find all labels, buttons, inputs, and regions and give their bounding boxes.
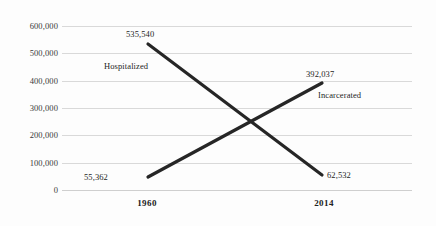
label-hospitalized-start: 535,540 (126, 29, 154, 39)
y-tick-500000: 500,000 (0, 49, 58, 58)
gridline-200000 (62, 135, 412, 136)
label-incarcerated-end: 392,037 (306, 69, 334, 79)
y-tick-200000: 200,000 (0, 131, 58, 140)
x-tick-1960: 1960 (137, 198, 157, 208)
gridline-500000 (62, 53, 412, 54)
chart-container: 600,000 500,000 400,000 300,000 200,000 … (0, 0, 436, 226)
y-tick-0: 0 (0, 186, 58, 195)
gridline-300000 (62, 108, 412, 109)
gridline-600000 (62, 26, 412, 27)
x-tick-2014: 2014 (314, 198, 334, 208)
y-tick-300000: 300,000 (0, 104, 58, 113)
y-tick-100000: 100,000 (0, 158, 58, 167)
series-label-incarcerated: Incarcerated (318, 90, 361, 100)
y-axis-ticks: 600,000 500,000 400,000 300,000 200,000 … (0, 0, 58, 226)
gridline-400000 (62, 81, 412, 82)
y-tick-400000: 400,000 (0, 76, 58, 85)
label-incarcerated-start: 55,362 (84, 172, 108, 182)
label-hospitalized-end: 62,532 (327, 170, 351, 180)
gridline-100000 (62, 163, 412, 164)
series-label-hospitalized: Hospitalized (104, 61, 148, 71)
plot-area (62, 26, 412, 190)
y-tick-600000: 600,000 (0, 22, 58, 31)
x-axis-line (62, 190, 412, 191)
